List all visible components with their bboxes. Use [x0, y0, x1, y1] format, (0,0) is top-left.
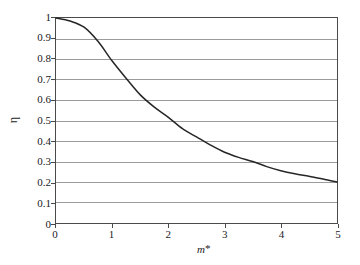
y-tick-label: 0.3	[37, 156, 51, 167]
y-tick-mark	[51, 38, 55, 39]
y-tick-label: 0.4	[37, 136, 51, 147]
x-tick-label: 0	[52, 229, 58, 240]
y-tick-label: 0.8	[37, 53, 51, 64]
x-axis-label: m*	[197, 243, 210, 255]
y-tick-label: 1	[46, 12, 52, 23]
y-tick-label: 0.5	[37, 115, 51, 126]
y-tick-mark	[51, 17, 55, 18]
plot-area	[55, 17, 338, 224]
y-tick-mark	[51, 79, 55, 80]
y-tick-label: 0.9	[37, 32, 51, 43]
x-axis-label-star: *	[205, 242, 211, 254]
y-tick-label: 0	[46, 219, 52, 230]
y-tick-label: 0.6	[37, 94, 51, 105]
y-tick-mark	[51, 203, 55, 204]
y-tick-mark	[51, 183, 55, 184]
y-tick-mark	[51, 100, 55, 101]
series-layer	[56, 18, 337, 223]
series-eta-curve	[56, 18, 337, 182]
x-tick-label: 3	[222, 229, 228, 240]
y-tick-mark	[51, 162, 55, 163]
y-tick-mark	[51, 141, 55, 142]
y-tick-mark	[51, 58, 55, 59]
y-tick-label: 0.1	[37, 198, 51, 209]
y-tick-label: 0.7	[37, 74, 51, 85]
y-tick-mark	[51, 121, 55, 122]
x-tick-label: 4	[279, 229, 285, 240]
y-tick-label: 0.2	[37, 177, 51, 188]
y-axis-label: η	[7, 117, 19, 123]
x-tick-label: 5	[335, 229, 341, 240]
x-axis-label-text: m*	[197, 243, 210, 255]
chart-figure: 00.10.20.30.40.50.60.70.80.91 012345 η m…	[0, 0, 360, 265]
x-tick-label: 2	[165, 229, 171, 240]
x-tick-label: 1	[109, 229, 115, 240]
